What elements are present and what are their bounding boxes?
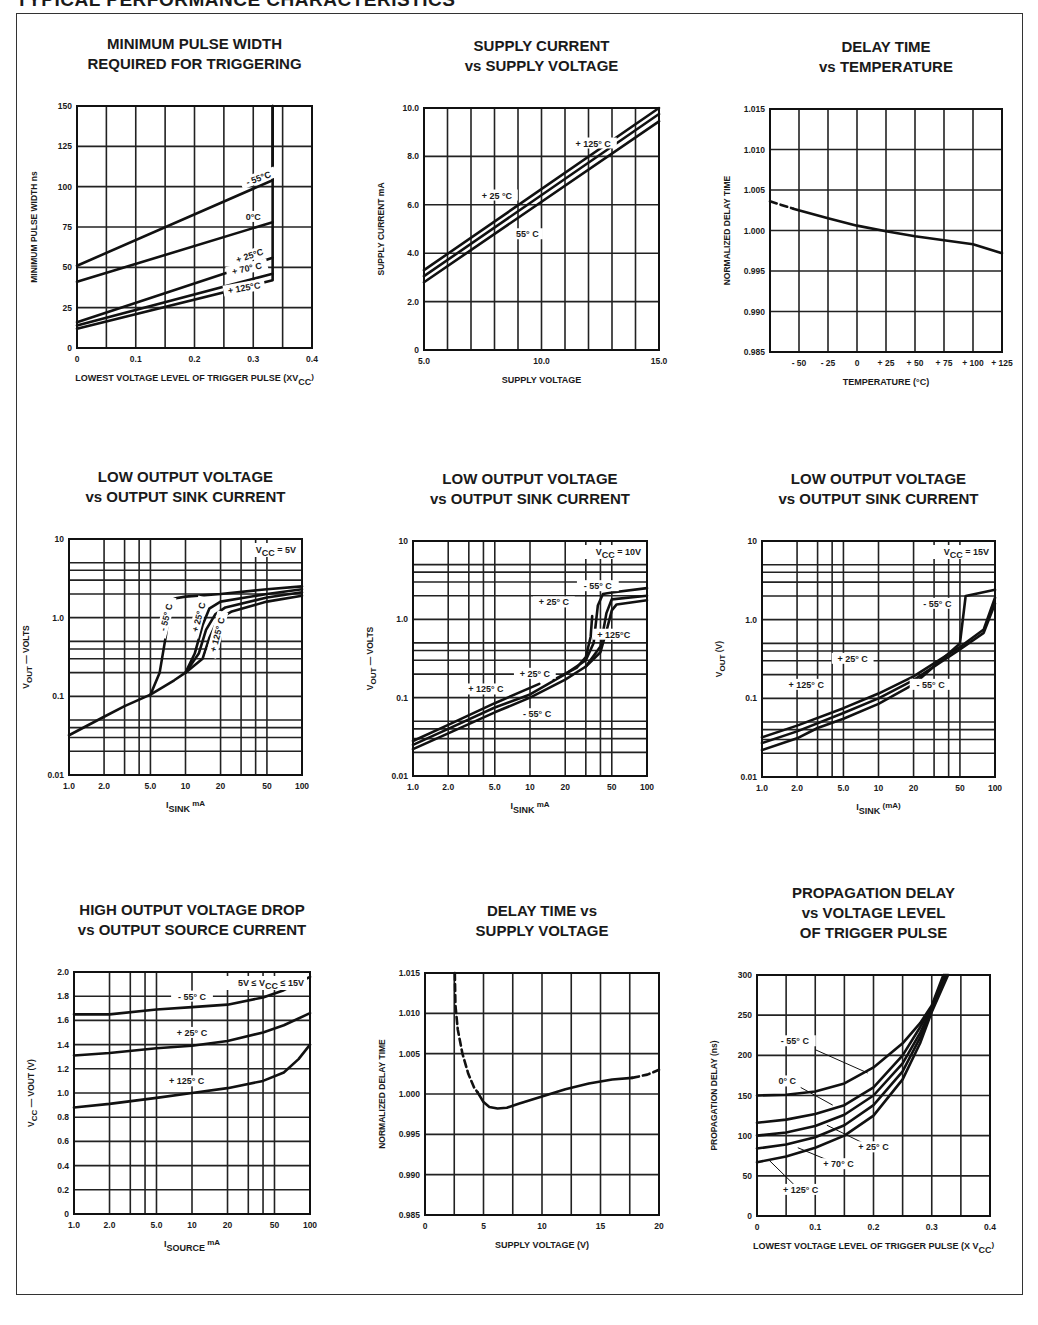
figure-frame	[16, 13, 1023, 1295]
page-header: TYPICAL PERFORMANCE CHARACTERISTICS	[16, 0, 455, 11]
